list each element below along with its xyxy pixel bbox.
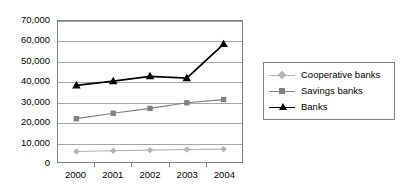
legend-label: Cooperative banks — [301, 70, 380, 80]
legend-swatch — [269, 69, 295, 81]
y-axis-tick-label: 30,000 — [0, 97, 50, 107]
y-axis-tick-label: 60,000 — [0, 36, 50, 46]
data-point-marker — [147, 106, 152, 111]
x-axis-tick-label: 2001 — [102, 170, 123, 180]
y-axis-tick-label: 50,000 — [0, 56, 50, 66]
x-axis-tick-mark — [94, 163, 95, 167]
data-point-marker — [221, 97, 226, 102]
y-axis-tick-label: 70,000 — [0, 15, 50, 25]
data-point-marker — [220, 146, 226, 152]
data-point-marker — [147, 147, 153, 153]
legend-swatch — [269, 101, 295, 113]
data-point-marker — [184, 100, 189, 105]
chart-legend: Cooperative banksSavings banksBanks — [263, 62, 395, 120]
x-axis-ticks — [57, 163, 243, 168]
x-axis-tick-label: 2002 — [139, 170, 160, 180]
legend-item[interactable]: Banks — [269, 99, 389, 115]
data-point-marker — [146, 72, 155, 79]
data-point-marker — [110, 148, 116, 154]
data-point-marker — [74, 116, 79, 121]
y-axis-tick-label: 20,000 — [0, 117, 50, 127]
legend-item[interactable]: Savings banks — [269, 83, 389, 99]
series-banks — [72, 40, 228, 89]
legend-label: Banks — [301, 102, 327, 112]
x-axis-tick-mark — [206, 163, 207, 167]
legend-marker-triangle-icon — [279, 103, 287, 110]
data-point-marker — [184, 146, 190, 152]
y-axis: 010,00020,00030,00040,00050,00060,00070,… — [0, 0, 50, 195]
y-axis-tick-label: 0 — [0, 158, 50, 168]
legend-label: Savings banks — [301, 86, 363, 96]
series-cooperative-banks — [73, 146, 227, 155]
x-axis-tick-label: 2003 — [177, 170, 198, 180]
y-axis-tick-label: 40,000 — [0, 77, 50, 87]
x-axis-tick-label: 2004 — [214, 170, 235, 180]
data-point-marker — [219, 40, 228, 47]
y-axis-tick-label: 10,000 — [0, 138, 50, 148]
legend-marker-diamond-icon — [278, 71, 286, 79]
series-layer — [58, 21, 242, 162]
x-axis-tick-mark — [131, 163, 132, 167]
plot-area — [57, 20, 243, 163]
x-axis-tick-label: 2000 — [65, 170, 86, 180]
x-axis: 20002001200220032004 — [57, 170, 243, 186]
legend-marker-square-icon — [279, 88, 285, 94]
series-savings-banks — [74, 97, 227, 121]
legend-swatch — [269, 85, 295, 97]
x-axis-tick-mark — [169, 163, 170, 167]
line-chart: 010,00020,00030,00040,00050,00060,00070,… — [0, 0, 409, 195]
legend-item[interactable]: Cooperative banks — [269, 67, 389, 83]
data-point-marker — [111, 111, 116, 116]
data-point-marker — [73, 148, 79, 154]
